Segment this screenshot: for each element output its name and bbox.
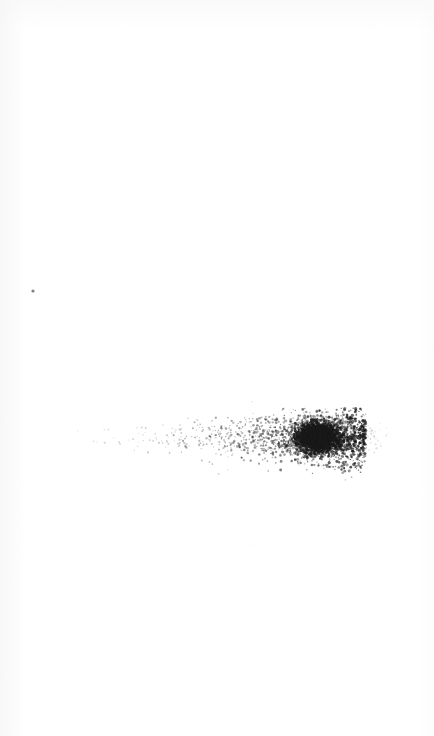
paper-texture bbox=[0, 0, 434, 736]
artifact-speckle-smear: horizontal toner speckle smear bbox=[0, 0, 1, 1]
ink-artifact-layer bbox=[0, 0, 434, 736]
page-description: Blank scanned page bearing no text or pr… bbox=[0, 0, 1, 1]
artifact-isolated-speck: isolated speck bbox=[0, 0, 1, 1]
scanned-page: isolated speck horizontal toner speckle … bbox=[0, 0, 434, 736]
